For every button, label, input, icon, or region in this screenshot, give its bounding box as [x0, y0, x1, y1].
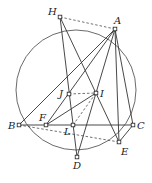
label-B: B — [7, 120, 15, 131]
point-I — [94, 91, 98, 95]
label-A: A — [113, 15, 121, 26]
point-E — [117, 140, 121, 144]
point-D — [75, 155, 79, 159]
point-F — [44, 123, 48, 127]
label-E: E — [120, 146, 129, 157]
point-B — [17, 123, 21, 127]
label-D: D — [72, 160, 81, 171]
segment-CE — [119, 125, 133, 142]
point-L — [71, 123, 75, 127]
point-A — [113, 27, 117, 31]
label-L: L — [63, 126, 71, 137]
label-I: I — [99, 88, 105, 99]
geometry-diagram: HAJIBFLCED — [0, 0, 152, 183]
segment-LI — [73, 93, 96, 125]
segment-FI — [46, 93, 96, 125]
label-F: F — [38, 112, 47, 123]
solid-segments — [19, 17, 133, 157]
label-C: C — [137, 120, 145, 131]
label-H: H — [47, 6, 57, 17]
segment-JI — [69, 93, 96, 94]
point-H — [58, 15, 62, 19]
segment-HA — [60, 17, 115, 29]
point-C — [131, 123, 135, 127]
circumcircle — [16, 30, 136, 150]
point-J — [67, 92, 71, 96]
label-J: J — [57, 88, 64, 99]
